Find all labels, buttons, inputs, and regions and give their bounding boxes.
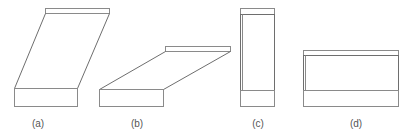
panel-a-left-edge xyxy=(15,14,46,89)
panel-d-top-plate xyxy=(304,51,399,56)
panel-b-left-edge xyxy=(100,52,166,90)
panel-a-label: (a) xyxy=(32,118,44,129)
panel-a-top-plate xyxy=(46,9,110,14)
panel-d-bottom-plate xyxy=(304,91,399,107)
panel-d-label: (d) xyxy=(350,118,362,129)
panel-c-body xyxy=(241,15,275,91)
panel-d-shape xyxy=(304,51,399,107)
panel-c-bottom-plate xyxy=(241,91,275,107)
panel-a-right-edge xyxy=(78,14,110,89)
panel-c-top-plate xyxy=(241,9,275,15)
diagram-canvas xyxy=(0,0,411,135)
panel-b-label: (b) xyxy=(131,118,143,129)
panel-d-body xyxy=(304,56,399,91)
panel-b-top-plate xyxy=(166,47,231,52)
panel-c-label: (c) xyxy=(252,118,264,129)
panel-b-shape xyxy=(100,47,231,107)
panel-a-bottom-plate xyxy=(15,89,78,107)
panel-b-bottom-plate xyxy=(100,90,164,107)
panel-c-shape xyxy=(241,9,275,107)
panel-b-right-edge xyxy=(164,52,231,90)
panel-a-shape xyxy=(15,9,110,107)
